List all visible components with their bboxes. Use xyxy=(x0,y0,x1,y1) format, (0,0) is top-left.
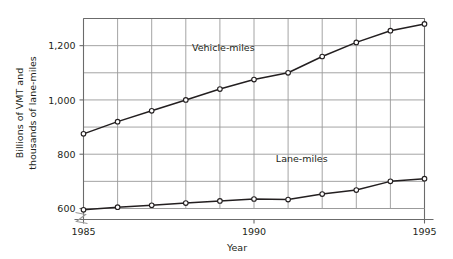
data-point xyxy=(81,208,86,213)
y-tick-label: 600 xyxy=(57,203,75,214)
y-axis-title-line-1: Billions of VMT and xyxy=(14,68,25,158)
data-point xyxy=(320,54,325,59)
data-point xyxy=(184,201,189,206)
data-point xyxy=(422,176,427,181)
data-point xyxy=(252,197,257,202)
x-tick-label: 1990 xyxy=(242,226,266,237)
data-point xyxy=(149,108,154,113)
data-point xyxy=(115,119,120,124)
data-point xyxy=(218,87,223,92)
data-point xyxy=(354,188,359,193)
x-tick-label: 1995 xyxy=(412,226,436,237)
x-axis-title: Year xyxy=(226,242,247,253)
data-point xyxy=(149,203,154,208)
x-tick-label: 1985 xyxy=(71,226,95,237)
data-point xyxy=(320,192,325,197)
data-point xyxy=(184,98,189,103)
line-chart: 198519901995 6008001,0001,200 Vehicle-mi… xyxy=(0,0,453,259)
chart-background xyxy=(0,0,453,259)
data-point xyxy=(218,199,223,204)
data-point xyxy=(115,205,120,210)
y-tick-label: 800 xyxy=(57,149,75,160)
data-point xyxy=(252,77,257,82)
data-point xyxy=(388,28,393,33)
chart-figure: 198519901995 6008001,0001,200 Vehicle-mi… xyxy=(0,0,453,259)
data-point xyxy=(81,132,86,137)
y-axis-title-line-2: thousands of lane-miles xyxy=(27,56,38,170)
data-point xyxy=(286,70,291,75)
y-tick-label: 1,000 xyxy=(48,95,75,106)
series-label-lane-miles: Lane-miles xyxy=(276,153,328,164)
data-point xyxy=(286,197,291,202)
data-point xyxy=(388,179,393,184)
series-label-vehicle-miles: Vehicle-miles xyxy=(192,42,255,53)
data-point xyxy=(354,40,359,45)
data-point xyxy=(422,22,427,27)
y-tick-label: 1,200 xyxy=(48,40,75,51)
